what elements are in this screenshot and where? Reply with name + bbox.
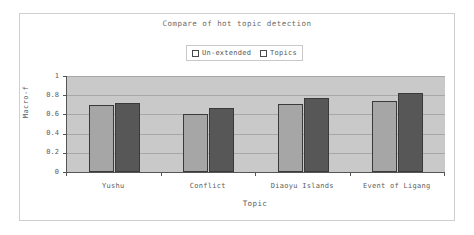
bar-1-0[interactable] — [115, 103, 140, 172]
chart-figure: Compare of hot topic detection Un-extend… — [0, 0, 474, 235]
bar-0-0[interactable] — [89, 105, 114, 172]
legend-item-topics[interactable]: Topics — [260, 49, 297, 57]
bar-0-1[interactable] — [183, 114, 208, 172]
y-tick-mark — [63, 114, 66, 115]
x-tick-label: Conflict — [158, 182, 258, 190]
y-tick-mark — [63, 134, 66, 135]
y-axis-label: Macro-f — [22, 72, 30, 132]
gridline — [67, 76, 445, 77]
legend-label-un-extended: Un-extended — [202, 49, 251, 57]
legend-item-un-extended[interactable]: Un-extended — [192, 49, 251, 57]
gridline — [67, 95, 445, 96]
bar-1-2[interactable] — [304, 98, 329, 172]
y-tick-mark — [63, 76, 66, 77]
y-tick-label: 1 — [26, 72, 59, 80]
bar-1-3[interactable] — [398, 93, 423, 172]
y-tick-label: 0.2 — [26, 148, 59, 156]
y-tick-label: 0.8 — [26, 91, 59, 99]
y-tick-label: 0.4 — [26, 129, 59, 137]
x-tick-label: Event of Ligang — [347, 182, 447, 190]
chart-legend: Un-extended Topics — [186, 45, 303, 61]
y-tick-label: 0 — [26, 168, 59, 176]
x-tick-mark — [161, 173, 162, 176]
x-tick-label: Diaoyu Islands — [252, 182, 352, 190]
bar-0-2[interactable] — [278, 104, 303, 172]
bar-0-3[interactable] — [372, 101, 397, 172]
y-tick-mark — [63, 95, 66, 96]
y-tick-label: 0.6 — [26, 110, 59, 118]
y-tick-mark — [63, 153, 66, 154]
plot-area — [66, 76, 445, 173]
legend-swatch-un-extended — [192, 50, 199, 57]
x-tick-mark — [444, 173, 445, 176]
legend-label-topics: Topics — [270, 49, 297, 57]
x-tick-mark — [66, 173, 67, 176]
chart-title: Compare of hot topic detection — [0, 19, 474, 28]
x-tick-mark — [350, 173, 351, 176]
x-tick-label: Yushu — [63, 182, 163, 190]
legend-swatch-topics — [260, 50, 267, 57]
bar-1-1[interactable] — [209, 108, 234, 172]
x-axis-label: Topic — [66, 199, 444, 208]
x-tick-mark — [255, 173, 256, 176]
